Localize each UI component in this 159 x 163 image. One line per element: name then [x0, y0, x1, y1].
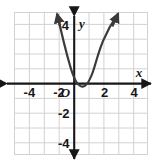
origin-label: O — [61, 85, 71, 100]
y-tick-label-4: 4 — [62, 18, 70, 33]
graph-figure: -4 -2 2 4 4 -2 -4 O x y — [0, 0, 159, 163]
y-tick-label-neg2: -2 — [58, 106, 70, 121]
y-axis-label: y — [77, 16, 85, 31]
x-tick-label-neg4: -4 — [24, 85, 36, 100]
x-tick-label-2: 2 — [101, 85, 108, 100]
x-axis-label: x — [135, 65, 143, 80]
x-tick-label-4: 4 — [131, 85, 139, 100]
coordinate-plane: -4 -2 2 4 4 -2 -4 O x y — [0, 0, 159, 163]
y-tick-label-neg4: -4 — [58, 136, 70, 151]
